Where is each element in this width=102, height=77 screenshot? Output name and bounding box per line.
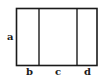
label-d-width: d bbox=[84, 67, 91, 77]
outer-rectangle bbox=[17, 9, 98, 66]
label-b-width: b bbox=[26, 67, 33, 77]
label-c-width: c bbox=[55, 67, 61, 77]
label-a-height: a bbox=[7, 32, 13, 42]
rectangle-partition-diagram: a b c d bbox=[0, 0, 102, 77]
